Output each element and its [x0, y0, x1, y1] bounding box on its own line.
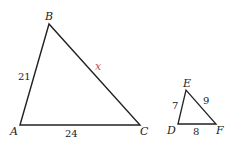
triangle-abc [20, 24, 140, 125]
side-ac-length: 24 [65, 128, 78, 139]
vertex-a-label: A [9, 125, 18, 138]
triangle-def [178, 90, 216, 124]
vertex-d-label: D [166, 124, 176, 137]
vertex-e-label: E [182, 77, 191, 90]
side-df-length: 8 [193, 126, 199, 137]
side-ab-length: 21 [18, 71, 31, 82]
vertex-f-label: F [215, 124, 224, 137]
similar-triangles-diagram: A B C 21 24 x D E F 7 9 8 [0, 0, 235, 143]
vertex-c-label: C [140, 125, 149, 138]
side-bc-variable: x [95, 60, 102, 73]
side-ef-length: 9 [203, 95, 209, 106]
vertex-b-label: B [44, 10, 53, 23]
side-de-length: 7 [172, 100, 178, 111]
